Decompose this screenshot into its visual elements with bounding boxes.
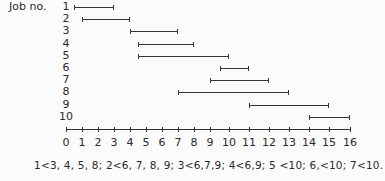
precedence-constraints-text: 1<3, 4, 5, 8; 2<6, 7, 8, 9; 3<6,7,9; 4<6…: [34, 159, 383, 171]
bar-start-cap: [210, 78, 211, 83]
axis-tick: [229, 127, 230, 132]
axis-tick-label: 14: [299, 137, 319, 149]
job-label: 4: [59, 38, 73, 50]
axis-tick: [269, 127, 270, 132]
axis-tick: [249, 127, 250, 132]
bar-start-cap: [138, 54, 139, 59]
axis-tick: [289, 127, 290, 132]
job-interval-bar: [138, 44, 194, 45]
axis-tick: [66, 127, 67, 132]
bar-end-cap: [193, 42, 194, 47]
bar-end-cap: [288, 90, 289, 95]
job-interval-bar: [178, 92, 289, 93]
axis-tick-label: 12: [259, 137, 279, 149]
axis-tick: [178, 127, 179, 132]
bar-start-cap: [178, 90, 179, 95]
axis-tick: [98, 127, 99, 132]
axis-tick-label: 16: [340, 137, 360, 149]
job-label: 8: [59, 86, 73, 98]
job-label: 1: [59, 1, 73, 13]
job-schedule-diagram: Job no. 12345678910 01234567891011121314…: [0, 0, 385, 181]
bar-end-cap: [113, 5, 114, 10]
axis-tick-label: 10: [219, 137, 239, 149]
job-interval-bar: [138, 56, 229, 57]
bar-start-cap: [309, 115, 310, 120]
job-interval-bar: [130, 31, 178, 32]
job-label: 3: [59, 25, 73, 37]
axis-tick: [329, 127, 330, 132]
job-interval-bar: [309, 117, 350, 118]
job-interval-bar: [82, 19, 130, 20]
bar-start-cap: [82, 17, 83, 22]
job-label: 6: [59, 62, 73, 74]
axis-tick: [82, 127, 83, 132]
job-label: 10: [59, 111, 73, 123]
bar-start-cap: [138, 42, 139, 47]
job-label: 2: [59, 13, 73, 25]
job-label: 7: [59, 74, 73, 86]
axis-tick-label: 9: [200, 137, 220, 149]
job-label: 5: [59, 50, 73, 62]
job-interval-bar: [210, 80, 269, 81]
y-axis-title: Job no.: [9, 1, 46, 13]
bar-start-cap: [130, 29, 131, 34]
axis-tick: [309, 127, 310, 132]
axis-tick-label: 15: [319, 137, 339, 149]
bar-end-cap: [248, 66, 249, 71]
job-label: 9: [59, 99, 73, 111]
bar-end-cap: [328, 103, 329, 108]
axis-tick: [210, 127, 211, 132]
axis-tick: [114, 127, 115, 132]
bar-end-cap: [177, 29, 178, 34]
axis-tick: [130, 127, 131, 132]
job-interval-bar: [220, 68, 250, 69]
bar-end-cap: [228, 54, 229, 59]
axis-tick: [350, 127, 351, 132]
bar-start-cap: [220, 66, 221, 71]
bar-end-cap: [129, 17, 130, 22]
axis-tick: [194, 127, 195, 132]
bar-end-cap: [268, 78, 269, 83]
job-interval-bar: [249, 105, 329, 106]
axis-tick-label: 11: [239, 137, 259, 149]
axis-tick-label: 13: [279, 137, 299, 149]
bar-start-cap: [74, 5, 75, 10]
job-interval-bar: [74, 7, 114, 8]
axis-tick: [146, 127, 147, 132]
axis-tick: [162, 127, 163, 132]
bar-start-cap: [249, 103, 250, 108]
bar-end-cap: [349, 115, 350, 120]
